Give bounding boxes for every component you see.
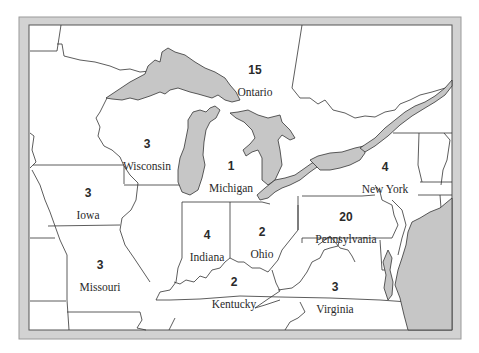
region-name: Iowa (77, 208, 100, 222)
region-label-new-york: 4New York (362, 160, 409, 196)
region-name: Pennsylvania (315, 232, 376, 246)
region-label-ohio: 2Ohio (251, 225, 274, 261)
region-label-wisconsin: 3Wisconsin (123, 137, 171, 173)
region-label-indiana: 4Indiana (190, 228, 224, 264)
region-count: 15 (237, 63, 272, 77)
region-count: 2 (212, 275, 257, 289)
region-name: Indiana (190, 250, 224, 264)
region-count: 20 (315, 210, 376, 224)
region-count: 4 (190, 228, 224, 242)
region-count: 3 (123, 137, 171, 151)
region-count: 1 (209, 159, 253, 173)
region-label-kentucky: 2Kentucky (212, 275, 257, 311)
region-name: New York (362, 182, 409, 196)
region-count: 4 (362, 160, 409, 174)
region-count: 3 (316, 280, 353, 294)
region-label-michigan: 1Michigan (209, 159, 253, 195)
region-count: 3 (77, 186, 100, 200)
region-label-virginia: 3Virginia (316, 280, 353, 316)
region-label-iowa: 3Iowa (77, 186, 100, 222)
region-label-pennsylvania: 20Pennsylvania (315, 210, 376, 246)
region-label-missouri: 3Missouri (80, 258, 121, 294)
region-name: Michigan (209, 181, 253, 195)
region-name: Kentucky (212, 297, 257, 311)
region-count: 2 (251, 225, 274, 239)
region-name: Virginia (316, 302, 353, 316)
region-name: Missouri (80, 280, 121, 294)
region-count: 3 (80, 258, 121, 272)
region-name: Wisconsin (123, 159, 171, 173)
region-name: Ontario (237, 85, 272, 99)
region-label-ontario: 15Ontario (237, 63, 272, 99)
region-name: Ohio (251, 247, 274, 261)
